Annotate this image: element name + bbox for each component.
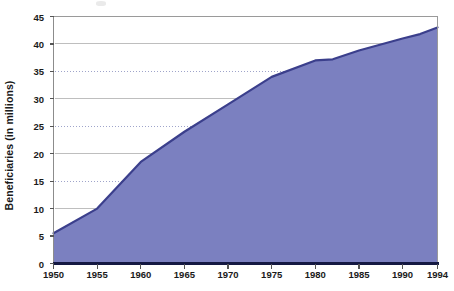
x-tick-label-1960: 1960 bbox=[130, 269, 151, 280]
beneficiaries-area-chart: 051015202530354045 195019551960196519701… bbox=[0, 0, 454, 291]
x-tick-label-1980: 1980 bbox=[305, 269, 326, 280]
x-tick-label-1994: 1994 bbox=[427, 269, 448, 280]
x-tick-label-1965: 1965 bbox=[174, 269, 195, 280]
x-tick-label-1975: 1975 bbox=[261, 269, 282, 280]
x-tick-label-1990: 1990 bbox=[392, 269, 413, 280]
x-tick-label-1955: 1955 bbox=[87, 269, 108, 280]
x-tick-label-1970: 1970 bbox=[217, 269, 238, 280]
x-axis-tick-labels: 1950195519601965197019751980198519901994 bbox=[0, 0, 454, 291]
x-tick-label-1950: 1950 bbox=[43, 269, 64, 280]
x-tick-label-1985: 1985 bbox=[348, 269, 369, 280]
